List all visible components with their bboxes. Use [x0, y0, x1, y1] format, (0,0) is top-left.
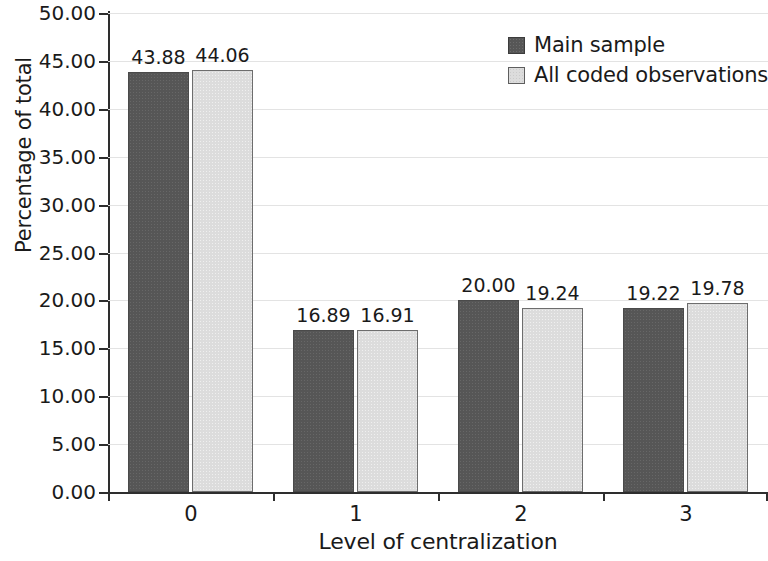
- bar-all-coded-observations-0: [192, 70, 253, 492]
- bar-chart: Percentage of total 0.005.0010.0015.0020…: [0, 0, 768, 561]
- x-tick-mark: [438, 492, 440, 501]
- y-tick-mark: [99, 253, 108, 255]
- bar-all-coded-observations-2: [522, 308, 583, 492]
- y-tick-label: 0.00: [0, 482, 96, 502]
- x-axis-title: Level of centralization: [108, 529, 768, 554]
- y-tick-mark: [99, 157, 108, 159]
- legend-item-all-coded-observations[interactable]: All coded observations: [508, 60, 768, 90]
- y-tick-label: 25.00: [0, 243, 96, 263]
- y-tick-mark: [99, 61, 108, 63]
- y-tick-mark: [99, 348, 108, 350]
- y-tick-label: 35.00: [0, 147, 96, 167]
- y-tick-mark: [99, 109, 108, 111]
- bar-value-label: 16.91: [347, 306, 428, 325]
- y-tick-mark: [99, 396, 108, 398]
- y-tick-label: 5.00: [0, 434, 96, 454]
- x-tick-mark: [273, 492, 275, 501]
- bar-value-label: 44.06: [182, 46, 263, 65]
- legend-item-main-sample[interactable]: Main sample: [508, 30, 768, 60]
- x-tick-label: 3: [646, 502, 726, 526]
- legend-label: All coded observations: [534, 65, 768, 86]
- bar-main-sample-1: [293, 330, 354, 492]
- x-tick-label: 2: [481, 502, 561, 526]
- bar-main-sample-0: [128, 72, 189, 492]
- y-tick-mark: [99, 492, 108, 494]
- bar-all-coded-observations-3: [687, 303, 748, 492]
- y-tick-label: 15.00: [0, 338, 96, 358]
- y-tick-label: 30.00: [0, 195, 96, 215]
- legend-label: Main sample: [534, 35, 665, 56]
- bar-value-label: 19.24: [512, 284, 593, 303]
- y-tick-mark: [99, 13, 108, 15]
- legend-swatch-icon: [508, 67, 525, 84]
- chart-legend: Main sampleAll coded observations: [508, 30, 768, 90]
- y-tick-label: 20.00: [0, 290, 96, 310]
- bar-value-label: 19.78: [677, 279, 758, 298]
- y-tick-label: 45.00: [0, 51, 96, 71]
- y-tick-mark: [99, 205, 108, 207]
- y-tick-label: 10.00: [0, 386, 96, 406]
- bar-main-sample-2: [458, 300, 519, 492]
- bar-all-coded-observations-1: [357, 330, 418, 492]
- y-tick-label: 50.00: [0, 3, 96, 23]
- legend-swatch-icon: [508, 37, 525, 54]
- y-tick-label: 40.00: [0, 99, 96, 119]
- x-tick-label: 1: [316, 502, 396, 526]
- y-tick-mark: [99, 444, 108, 446]
- x-tick-label: 0: [151, 502, 231, 526]
- y-tick-mark: [99, 300, 108, 302]
- bar-main-sample-3: [623, 308, 684, 492]
- x-tick-mark: [108, 492, 110, 501]
- x-tick-mark: [603, 492, 605, 501]
